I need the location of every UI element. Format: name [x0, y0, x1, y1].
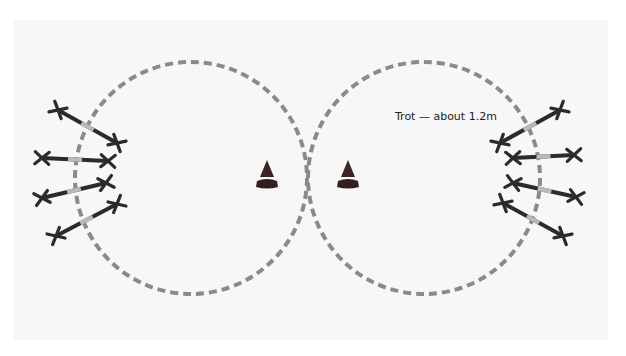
- hoofprint-icon: [491, 134, 509, 151]
- cone-right-icon: [337, 160, 359, 189]
- stride-right-4: [494, 194, 572, 244]
- stride-right-3: [505, 176, 584, 205]
- hoofprint-icon: [108, 195, 126, 212]
- stride-left-3: [34, 176, 114, 206]
- figure-eight-diagram: [0, 0, 626, 356]
- right-circle: [308, 62, 540, 294]
- circles: [75, 62, 540, 294]
- hoofprint-icon: [554, 227, 572, 244]
- hoofprint-icon: [49, 101, 67, 118]
- stride-left-1: [49, 101, 126, 151]
- stride-right-2: [506, 149, 582, 165]
- stride-left-4: [47, 195, 126, 244]
- hoofprint-icon: [494, 194, 512, 211]
- stride-right-1: [491, 101, 569, 151]
- trot-distance-label: Trot — about 1.2m: [395, 110, 497, 123]
- hoofprint-icon: [47, 227, 65, 244]
- hoofprint-icon: [551, 101, 569, 118]
- cone-left-icon: [256, 160, 278, 189]
- hoofprint-icon: [108, 134, 126, 151]
